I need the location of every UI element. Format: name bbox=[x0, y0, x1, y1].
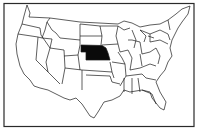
us-map bbox=[0, 0, 200, 130]
